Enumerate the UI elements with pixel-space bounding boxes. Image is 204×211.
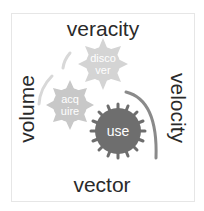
label-vector: vector — [73, 173, 130, 196]
label-volume: volume — [15, 75, 38, 143]
label-veracity: veracity — [67, 17, 140, 40]
gear-acquire: acq uire — [46, 80, 94, 130]
gear-acquire-line2: uire — [61, 105, 79, 117]
arc-volume-icon — [39, 76, 52, 104]
gear-discover-line1: disco — [90, 52, 116, 64]
label-velocity: velocity — [167, 73, 190, 144]
arc-veracity-icon — [63, 53, 70, 68]
gear-discover: disco ver — [78, 38, 128, 90]
gear-use-label: use — [107, 123, 130, 139]
lifecycle-diagram: disco ver acq uire use veracity vector v… — [0, 0, 204, 211]
gear-acquire-line1: acq — [61, 93, 79, 105]
gear-use: use — [91, 104, 145, 158]
gear-discover-line2: ver — [95, 64, 111, 76]
